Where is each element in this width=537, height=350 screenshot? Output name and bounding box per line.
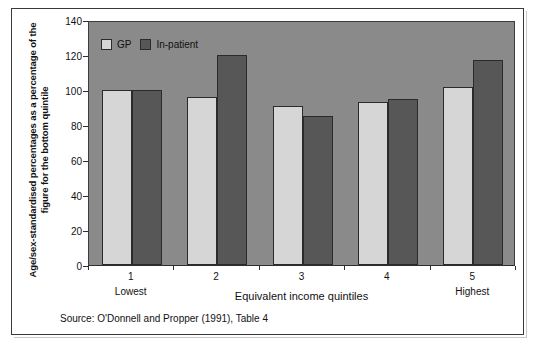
bars-container (89, 22, 514, 265)
x-tick-mark (173, 266, 174, 270)
bar-gp-q1 (102, 90, 132, 265)
bar-in-patient-q5 (473, 60, 503, 265)
legend-item-gp: GP (101, 39, 131, 50)
x-group-label: 5 (432, 271, 512, 282)
y-tick-label: 140 (48, 16, 82, 27)
legend-label-in-patient: In-patient (156, 39, 198, 50)
bar-gp-q4 (358, 102, 388, 265)
plot-area (88, 21, 515, 266)
y-tick-label: 0 (48, 261, 82, 272)
y-tick-label: 120 (48, 51, 82, 62)
legend-item-in-patient: In-patient (140, 39, 198, 50)
x-group-label: 3 (262, 271, 342, 282)
x-group-label: 4 (347, 271, 427, 282)
y-tick-label: 20 (48, 226, 82, 237)
x-axis-line (88, 265, 515, 266)
x-tick-mark (515, 266, 516, 270)
source-note: Source: O'Donnell and Propper (1991), Ta… (60, 313, 268, 324)
bar-gp-q3 (273, 106, 303, 265)
x-axis-title: Equivalent income quintiles (88, 290, 515, 302)
y-tick-label: 100 (48, 86, 82, 97)
bar-in-patient-q1 (132, 90, 162, 265)
y-tick-label: 40 (48, 191, 82, 202)
x-tick-mark (344, 266, 345, 270)
legend-swatch-gp-icon (101, 39, 112, 50)
x-tick-mark (259, 266, 260, 270)
bar-gp-q5 (443, 87, 473, 266)
legend-label-gp: GP (117, 39, 131, 50)
bar-in-patient-q4 (388, 99, 418, 265)
x-group-label: 2 (176, 271, 256, 282)
y-tick-label: 60 (48, 156, 82, 167)
x-tick-mark (88, 266, 89, 270)
y-tick-label: 80 (48, 121, 82, 132)
x-group-label: 1 (91, 271, 171, 282)
bar-in-patient-q3 (303, 116, 333, 265)
figure-root: Age/sex-standardised percentages as a pe… (0, 0, 537, 350)
bar-in-patient-q2 (217, 55, 247, 265)
x-tick-mark (430, 266, 431, 270)
chart-legend: GP In-patient (101, 39, 198, 50)
bar-gp-q2 (187, 97, 217, 265)
legend-swatch-in-patient-icon (140, 39, 151, 50)
